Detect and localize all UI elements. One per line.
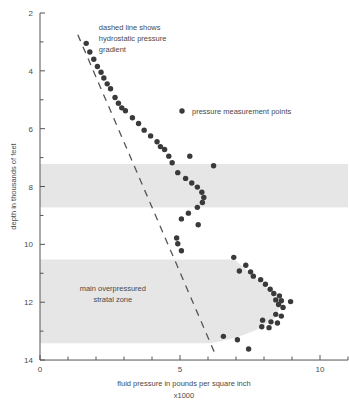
y-tick-label: 12 (24, 298, 33, 307)
data-point (237, 268, 242, 273)
data-point (187, 153, 192, 158)
data-point (98, 70, 103, 75)
data-point (221, 334, 226, 339)
hydrostatic-note-line: dashed line shows (99, 23, 161, 32)
data-point (246, 346, 251, 351)
x-axis-subtitle: x1000 (174, 391, 194, 400)
data-point (179, 216, 184, 221)
data-point (235, 337, 240, 342)
x-tick-label: 10 (316, 365, 325, 374)
data-point (195, 205, 200, 210)
data-point (91, 57, 96, 62)
overpressured-zone-note-line: main overpressured (80, 284, 146, 293)
legend-marker-icon (179, 108, 184, 113)
data-point (123, 108, 128, 113)
data-point (243, 262, 248, 267)
data-point (273, 312, 278, 317)
chart-canvas: 24681012140510 dashed line showshydrosta… (0, 0, 349, 404)
main-overpressured-stratal-zone (40, 259, 281, 343)
data-point (112, 95, 117, 100)
x-axis-title: fluid pressure in pounds per square inch (117, 379, 250, 388)
data-point (84, 41, 89, 46)
data-point (162, 147, 167, 152)
hydrostatic-note-line: hydrostatic pressure (99, 34, 167, 43)
data-point (130, 115, 135, 120)
data-point (136, 121, 141, 126)
y-tick-label: 4 (29, 67, 34, 76)
data-point (175, 170, 180, 175)
upper-shaded-band (40, 164, 348, 207)
data-point (266, 325, 271, 330)
data-point (200, 200, 205, 205)
data-point (201, 195, 206, 200)
y-tick-label: 14 (24, 356, 33, 365)
overpressured-zone-note-line: stratal zone (93, 295, 132, 304)
data-point (271, 291, 276, 296)
data-point (189, 180, 194, 185)
data-point (275, 320, 280, 325)
data-point (183, 176, 188, 181)
data-point (169, 160, 174, 165)
data-point (195, 184, 200, 189)
data-point (95, 64, 100, 69)
data-point (263, 282, 268, 287)
shaded-zones-layer (40, 164, 348, 343)
data-point (259, 324, 264, 329)
y-tick-label: 8 (29, 183, 34, 192)
pressure-depth-chart: 24681012140510 dashed line showshydrosta… (0, 0, 349, 404)
data-point (288, 299, 293, 304)
data-point (101, 75, 106, 80)
x-tick-label: 5 (178, 365, 183, 374)
data-point (87, 49, 92, 54)
data-point (211, 163, 216, 168)
data-point (175, 241, 180, 246)
data-point (148, 133, 153, 138)
data-point (186, 210, 191, 215)
data-point (273, 297, 278, 302)
data-point (116, 101, 121, 106)
data-point (276, 302, 281, 307)
x-tick-label: 0 (38, 365, 43, 374)
data-point (231, 255, 236, 260)
y-tick-label: 10 (24, 240, 33, 249)
data-point (260, 317, 265, 322)
hydrostatic-note-line: gradient (99, 45, 127, 54)
data-point (174, 235, 179, 240)
data-point (105, 81, 110, 86)
data-point (108, 86, 113, 91)
data-point (154, 139, 159, 144)
y-axis-title: depth in thousands of feet (9, 142, 18, 229)
data-point (196, 222, 201, 227)
y-tick-label: 2 (29, 9, 34, 18)
data-point (279, 313, 284, 318)
data-point (280, 305, 285, 310)
legend-label: pressure measurement points (192, 107, 291, 116)
data-point (277, 293, 282, 298)
data-point (267, 286, 272, 291)
data-point (251, 273, 256, 278)
data-point (258, 277, 263, 282)
data-point (166, 153, 171, 158)
data-point (199, 190, 204, 195)
legend: pressure measurement points (179, 107, 291, 116)
data-point (268, 319, 273, 324)
y-tick-label: 6 (29, 125, 34, 134)
data-point (141, 127, 146, 132)
data-point (179, 248, 184, 253)
